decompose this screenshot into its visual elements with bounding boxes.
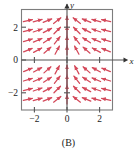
y-tick-label: 2 <box>13 23 18 33</box>
y-tick-label: −2 <box>8 88 18 98</box>
direction-field-figure: −20220−2 x y (B) <box>0 0 137 149</box>
figure-background <box>0 0 137 149</box>
x-tick-label: 0 <box>65 114 70 124</box>
x-axis-label: x <box>129 56 134 66</box>
y-tick-label: 0 <box>13 55 18 65</box>
x-tick-label: 2 <box>97 114 102 124</box>
y-axis-label: y <box>69 0 74 10</box>
plot-canvas: −20220−2 x y <box>0 0 137 149</box>
figure-caption: (B) <box>0 137 137 148</box>
x-tick-label: −2 <box>29 114 39 124</box>
